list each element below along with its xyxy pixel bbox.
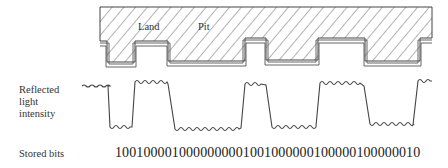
pit-label: Pit bbox=[198, 21, 210, 33]
land-label: Land bbox=[138, 21, 160, 33]
intensity-label-line-2: light bbox=[19, 96, 59, 108]
substrate-hatch bbox=[100, 7, 432, 62]
stored-bits-value: 1001000010000000001001000000100000100000… bbox=[115, 145, 420, 161]
intensity-label-line-3: intensity bbox=[19, 108, 59, 120]
disc-cross-section bbox=[100, 7, 432, 67]
stored-bits-label: Stored bits bbox=[19, 148, 64, 160]
intensity-axis-label: Reflected light intensity bbox=[19, 84, 59, 120]
intensity-label-line-1: Reflected bbox=[19, 84, 59, 96]
intensity-waveform bbox=[82, 80, 432, 131]
disc-diagram bbox=[0, 0, 448, 168]
